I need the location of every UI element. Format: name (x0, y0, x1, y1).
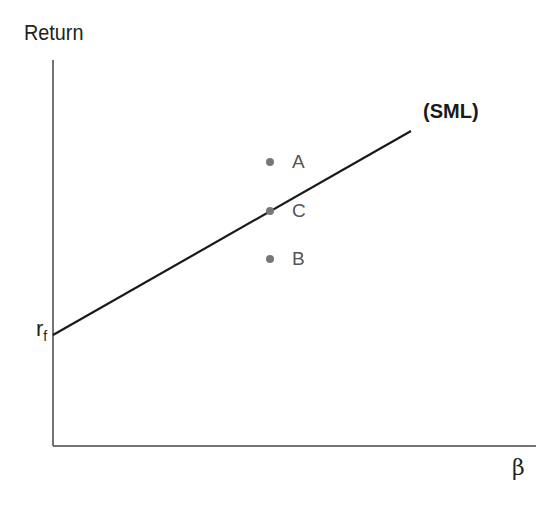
point-b-marker (266, 255, 274, 263)
rf-subscript: f (43, 328, 47, 344)
point-a-marker (266, 158, 274, 166)
point-c-marker (266, 207, 274, 215)
x-axis-label: β (512, 455, 525, 480)
sml-line (53, 131, 411, 335)
y-axis-label: Return (24, 20, 83, 46)
sml-diagram (0, 0, 559, 508)
sml-label: (SML) (423, 100, 479, 123)
point-c-label: C (292, 200, 306, 222)
risk-free-label: rf (36, 316, 47, 344)
point-b-label: B (292, 248, 305, 270)
point-a-label: A (292, 151, 305, 173)
